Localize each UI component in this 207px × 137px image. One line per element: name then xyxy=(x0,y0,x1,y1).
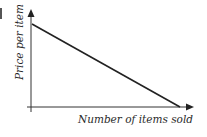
demand-line xyxy=(32,24,180,107)
x-axis-arrow-icon xyxy=(186,104,194,111)
x-axis-label: Number of items sold xyxy=(78,113,193,125)
y-axis-label: Price per item xyxy=(13,4,25,80)
y-axis-arrow-icon xyxy=(28,9,35,17)
